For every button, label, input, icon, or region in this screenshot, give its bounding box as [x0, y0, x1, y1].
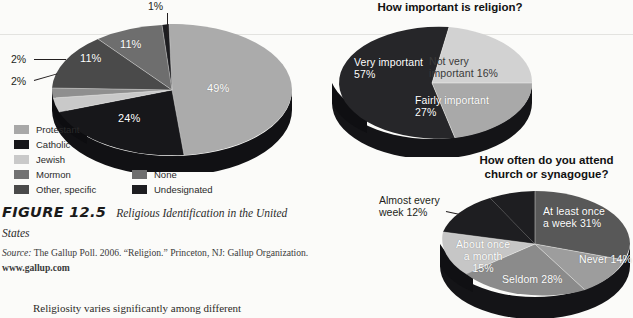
legend-swatch-jewish: [14, 155, 29, 164]
pie-2-graphic: [327, 17, 547, 157]
legend-swatch-mormon: [14, 170, 29, 179]
pie-1-label-none: 11%: [120, 38, 142, 50]
legend-label-none: None: [154, 169, 177, 180]
pie-1-callout-mormon: 2%: [11, 75, 26, 87]
pie-2-label-not-very-important: Not very important 16%: [429, 56, 498, 80]
source-text: The Gallup Poll. 2006. “Religion.” Princ…: [31, 247, 308, 258]
pie-2-label-very-important: Very important 57%: [354, 57, 423, 81]
pie-2-label-fairly-important: Fairly important 27%: [415, 95, 489, 119]
pie-3-label-at-least-once-a-week: At least once a week 31%: [543, 206, 605, 230]
pie-3-label-never: Never 14%: [579, 254, 632, 266]
legend-label-other-specific: Other, specific: [36, 184, 96, 195]
pie-3-callout-line2: week 12%: [379, 206, 427, 218]
pie-1-label-protestant: 49%: [207, 82, 229, 94]
legend-item-jewish: Jewish: [14, 152, 96, 167]
pie-3-label-month-line2: a month: [464, 250, 503, 262]
pie-3-callout-almost-every-week: Almost every week 12%: [379, 194, 457, 218]
chart-title-attendance-line2: church or synagogue?: [485, 168, 609, 180]
legend-swatch-undesignated: [132, 185, 147, 194]
pie-1-label-other-specific: 11%: [80, 52, 102, 64]
legend-item-mormon: Mormon: [14, 167, 96, 182]
pie-2-label-fairly-important-line1: Fairly important: [415, 94, 489, 106]
legend-item-other-specific: Other, specific: [14, 182, 96, 197]
pie-1-label-catholic: 24%: [118, 112, 140, 124]
pie-2-label-not-very-important-line2: important 16%: [429, 67, 498, 79]
source-url[interactable]: www.gallup.com: [2, 262, 70, 273]
figure-title-line1: Religious Identification in the United: [116, 207, 287, 219]
pie-2-label-very-important-line2: 57%: [354, 68, 375, 80]
figure-title-line2: States: [2, 227, 318, 239]
legend-label-catholic: Catholic: [36, 139, 70, 150]
chart-title-importance: How important is religion?: [340, 1, 560, 15]
legend-item-none: None: [132, 167, 213, 182]
pie-3-callout-line1: Almost every: [379, 194, 440, 206]
body-paragraph: Religiosity varies significantly among d…: [33, 300, 323, 317]
legend-swatch-catholic: [14, 140, 29, 149]
figure-caption: FIGURE 12.5Religious Identification in t…: [2, 203, 318, 239]
pie-3-label-month-line1: About once: [456, 238, 510, 250]
figure-number: FIGURE 12.5: [2, 204, 106, 220]
pie-3-label-week-line2: a week 31%: [543, 217, 601, 229]
chart-title-attendance-line1: How often do you attend: [479, 154, 613, 166]
pie-chart-importance-of-religion: Very important 57% Not very important 16…: [327, 17, 547, 157]
pie-2-label-fairly-important-line2: 27%: [415, 106, 436, 118]
pie-3-label-about-once-a-month: About once a month 15%: [456, 239, 510, 274]
pie-2-label-not-very-important-line1: Not very: [429, 55, 469, 67]
pie-3-label-week-line1: At least once: [543, 205, 605, 217]
pie-3-label-month-line3: 15%: [472, 262, 493, 274]
figure-source: Source: The Gallup Poll. 2006. “Religion…: [2, 246, 332, 276]
legend-item-protestant: Protestant: [14, 122, 96, 137]
legend-label-protestant: Protestant: [36, 124, 79, 135]
source-label: Source:: [2, 247, 31, 258]
pie-1-callout-jewish: 2%: [11, 53, 26, 65]
pie-2-label-very-important-line1: Very important: [354, 56, 423, 68]
legend-item-catholic: Catholic: [14, 137, 96, 152]
legend-column-2: None Undesignated: [132, 167, 213, 197]
legend-label-mormon: Mormon: [36, 169, 71, 180]
pie-3-label-seldom: Seldom 28%: [502, 274, 563, 286]
legend-swatch-other-specific: [14, 185, 29, 194]
legend-swatch-protestant: [14, 125, 29, 134]
legend-item-undesignated: Undesignated: [132, 182, 213, 197]
legend-label-undesignated: Undesignated: [154, 184, 213, 195]
legend-swatch-none: [132, 170, 147, 179]
legend-label-jewish: Jewish: [36, 154, 65, 165]
pie-1-leader-jewish: [34, 59, 66, 60]
legend-column-1: Protestant Catholic Jewish Mormon Other,…: [14, 122, 96, 197]
figure-page: 49% 24% 11% 11% 1% 2% 2% Protestant Cath…: [0, 0, 633, 318]
pie-chart-attendance: At least once a week 31% Never 14% Seldo…: [435, 182, 633, 318]
pie-1-callout-undesignated: 1%: [148, 0, 163, 12]
pie-1-leader-undesignated: [167, 13, 168, 37]
chart-title-attendance: How often do you attend church or synago…: [459, 154, 633, 181]
